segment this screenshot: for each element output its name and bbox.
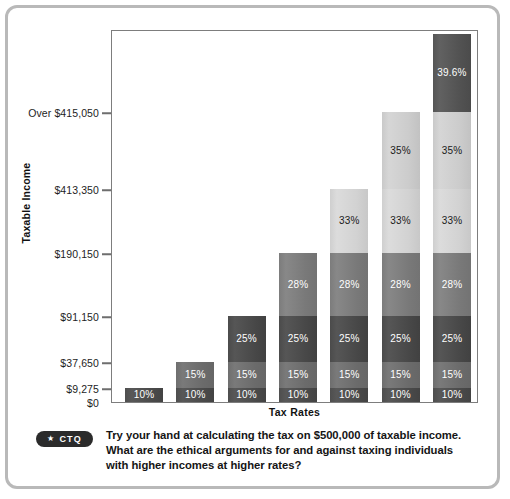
bar-segment: 33% [382, 189, 420, 253]
y-tick-mark [102, 316, 111, 318]
bar-segment-label: 33% [382, 216, 420, 226]
caption-block: ★ CTQ Try your hand at calculating the t… [8, 426, 503, 488]
y-tick-mark [102, 253, 111, 255]
bar-segment: 25% [433, 316, 471, 362]
bar-segment: 33% [330, 189, 368, 253]
bar: 35%33%28%25%15%10% [382, 112, 420, 402]
bar-segment: 35% [433, 112, 471, 189]
bar-segment-label: 25% [382, 334, 420, 344]
star-icon: ★ [47, 435, 55, 443]
y-tick-label: $413,350 [54, 184, 99, 196]
y-tick-label: $190,150 [54, 248, 99, 260]
bar-segment-label: 10% [330, 390, 368, 400]
bar-segment-label: 15% [330, 370, 368, 380]
bar-segment: 10% [125, 388, 163, 402]
y-tick-label: $91,150 [60, 311, 99, 323]
bar-segment: 10% [228, 388, 266, 402]
bar: 33%28%25%15%10% [330, 189, 368, 402]
bar-segment: 10% [382, 388, 420, 402]
y-tick-mark [102, 189, 111, 191]
chart-area: Taxable Income Tax Rates Over $415,050$4… [8, 8, 503, 418]
bar-segment: 15% [433, 362, 471, 388]
bar-segment-label: 33% [433, 216, 471, 226]
bar-segment-label: 10% [228, 390, 266, 400]
bar-segment-label: 25% [279, 334, 317, 344]
bar: 15%10% [176, 362, 214, 402]
bar-segment-label: 10% [382, 390, 420, 400]
y-tick-label: $0 [87, 397, 99, 409]
bar-segment-label: 35% [382, 146, 420, 156]
bar-segment-label: 15% [228, 370, 266, 380]
bar: 28%25%15%10% [279, 253, 317, 402]
bar-segment: 35% [382, 112, 420, 189]
bar-segment: 15% [382, 362, 420, 388]
bar: 25%15%10% [228, 316, 266, 402]
bar-segment-label: 25% [330, 334, 368, 344]
bar-segment-label: 15% [382, 370, 420, 380]
bar-segment-label: 10% [125, 390, 163, 400]
y-tick-mark [102, 388, 111, 390]
bar-segment: 15% [228, 362, 266, 388]
bar-segment-label: 39.6% [433, 68, 471, 78]
y-axis-title: Taxable Income [20, 163, 32, 244]
bar: 39.6%35%33%28%25%15%10% [433, 34, 471, 402]
ctq-badge: ★ CTQ [36, 431, 93, 447]
bar-segment: 39.6% [433, 34, 471, 112]
bar-segment-label: 28% [330, 280, 368, 290]
bar-segment: 10% [279, 388, 317, 402]
bar-segment: 10% [433, 388, 471, 402]
y-tick-mark [102, 362, 111, 364]
bar-segment: 15% [330, 362, 368, 388]
plot-area: 10%15%10%25%15%10%28%25%15%10%33%28%25%1… [111, 30, 478, 403]
bar-segment-label: 10% [176, 390, 214, 400]
y-tick-label: Over $415,050 [28, 107, 99, 119]
bar-segment: 33% [433, 189, 471, 253]
bar-segment-label: 10% [433, 390, 471, 400]
bar: 10% [125, 388, 163, 402]
bar-segment-label: 28% [382, 280, 420, 290]
bar-segment-label: 25% [228, 334, 266, 344]
figure-frame: Taxable Income Tax Rates Over $415,050$4… [5, 5, 500, 489]
bar-segment: 25% [279, 316, 317, 362]
bar-segment: 15% [279, 362, 317, 388]
bar-segment: 28% [279, 253, 317, 316]
bar-segment: 28% [382, 253, 420, 316]
bar-segment: 25% [228, 316, 266, 362]
bar-segment: 25% [382, 316, 420, 362]
y-tick-label: $9,275 [66, 383, 99, 395]
bar-segment-label: 33% [330, 216, 368, 226]
y-tick-label: $37,650 [60, 357, 99, 369]
bar-segment-label: 15% [176, 370, 214, 380]
bar-segment-label: 25% [433, 334, 471, 344]
bar-segment-label: 15% [279, 370, 317, 380]
ctq-label: CTQ [59, 434, 82, 444]
bar-segment: 15% [176, 362, 214, 388]
x-axis-title: Tax Rates [111, 406, 478, 418]
bar-segment: 10% [330, 388, 368, 402]
bar-segment-label: 35% [433, 146, 471, 156]
bar-segment: 10% [176, 388, 214, 402]
bar-segment: 28% [433, 253, 471, 316]
bar-segment-label: 28% [279, 280, 317, 290]
y-tick-mark [102, 112, 111, 114]
bar-segment-label: 10% [279, 390, 317, 400]
bar-segment-label: 15% [433, 370, 471, 380]
caption-text: Try your hand at calculating the tax on … [106, 428, 478, 473]
bar-segment-label: 28% [433, 280, 471, 290]
bar-segment: 25% [330, 316, 368, 362]
bar-segment: 28% [330, 253, 368, 316]
